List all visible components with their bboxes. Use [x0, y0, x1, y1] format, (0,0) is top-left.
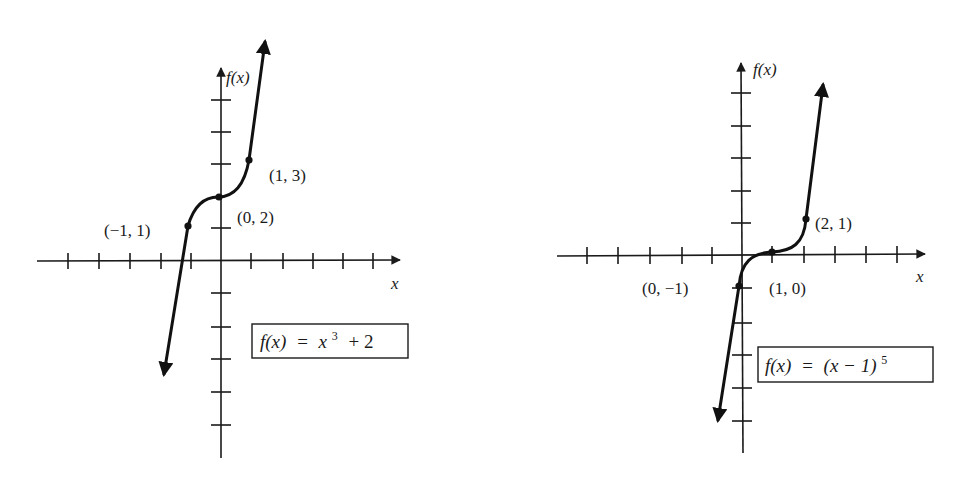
point-1-0: [768, 248, 775, 255]
x-axis-label: x: [915, 267, 924, 286]
formula-exponent: 3: [332, 329, 338, 343]
formula-eq: =: [802, 355, 813, 376]
x-axis: [37, 260, 400, 261]
point-label-neg1-1: (−1, 1): [104, 221, 150, 240]
point-label-2-1: (2, 1): [815, 214, 852, 233]
formula-box-cubic: f(x) = x 3 + 2: [252, 323, 408, 358]
formula-box-quintic: f(x) = (x − 1) 5: [758, 347, 933, 382]
point-label-1-0: (1, 0): [769, 279, 806, 298]
graph-cubic: f(x) x (−1, 1) (0, 2) (1, 3) f(x) = x 3 …: [37, 42, 408, 458]
formula-eq: =: [297, 331, 308, 352]
x-axis-label: x: [390, 274, 399, 293]
point-label-0-2: (0, 2): [237, 208, 274, 227]
point-label-1-3: (1, 3): [269, 166, 306, 185]
point-0-2: [215, 193, 222, 200]
point-label-0-neg1: (0, −1): [642, 279, 688, 298]
y-axis-label: f(x): [753, 60, 777, 79]
point-1-3: [245, 156, 252, 163]
svg-text:f(x) = (x − 1): f(x) = (x − 1) 5: [765, 353, 887, 377]
point-neg1-1: [184, 222, 191, 229]
formula-base: x: [318, 331, 328, 352]
y-axis: [741, 63, 743, 453]
formula-base: (x − 1): [824, 355, 877, 377]
formula-lhs: f(x): [765, 355, 791, 377]
formula-lhs: f(x): [260, 331, 286, 353]
y-axis-label: f(x): [226, 68, 250, 87]
x-axis: [557, 254, 925, 256]
graph-quintic: f(x) x (0, −1) (1, 0) (2, 1) f(x) = (x −…: [557, 60, 933, 453]
figure-canvas: f(x) x (−1, 1) (0, 2) (1, 3) f(x) = x 3 …: [0, 0, 958, 488]
formula-rest: + 2: [349, 331, 374, 352]
formula-exponent: 5: [881, 353, 887, 367]
point-2-1: [802, 215, 809, 222]
point-0-neg1: [735, 282, 742, 289]
